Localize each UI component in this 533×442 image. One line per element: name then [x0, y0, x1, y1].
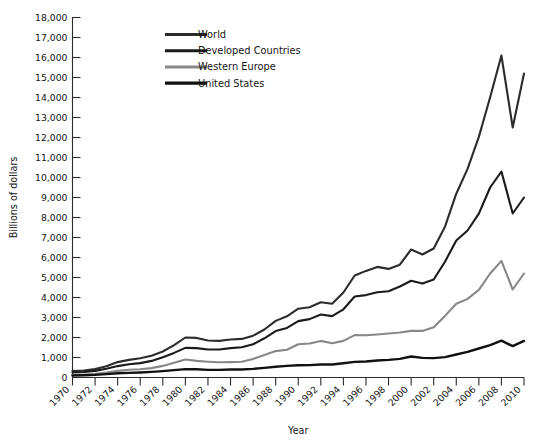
y-tick-label: 9,000 [41, 192, 68, 203]
y-tick-label: 1,000 [41, 352, 68, 363]
y-tick-label: 11,000 [35, 152, 68, 163]
legend-label-world: World [198, 29, 226, 40]
y-tick-label: 0 [62, 372, 68, 383]
y-tick-label: 13,000 [35, 112, 68, 123]
y-tick-label: 5,000 [41, 272, 68, 283]
y-axis-title: Billions of dollars [8, 157, 19, 239]
y-tick-label: 10,000 [35, 172, 68, 183]
line-chart: 01,0002,0003,0004,0005,0006,0007,0008,00… [0, 0, 533, 442]
legend-label-developed-countries: Developed Countries [198, 45, 301, 56]
chart-container: 01,0002,0003,0004,0005,0006,0007,0008,00… [0, 0, 533, 442]
y-tick-label: 8,000 [41, 212, 68, 223]
y-tick-label: 15,000 [35, 72, 68, 83]
y-tick-label: 14,000 [35, 92, 68, 103]
y-tick-label: 18,000 [35, 12, 68, 23]
legend-label-united-states: United States [198, 78, 264, 89]
y-tick-label: 4,000 [41, 292, 68, 303]
y-tick-label: 17,000 [35, 32, 68, 43]
y-tick-label: 3,000 [41, 312, 68, 323]
x-axis-title: Year [287, 425, 308, 436]
y-tick-label: 12,000 [35, 132, 68, 143]
y-tick-label: 7,000 [41, 232, 68, 243]
y-tick-label: 16,000 [35, 52, 68, 63]
y-tick-label: 2,000 [41, 332, 68, 343]
legend-label-western-europe: Western Europe [198, 61, 276, 72]
y-tick-label: 6,000 [41, 252, 68, 263]
